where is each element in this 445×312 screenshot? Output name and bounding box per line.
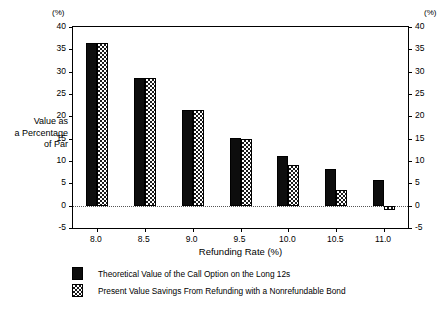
y-axis-tick-left	[69, 72, 73, 73]
y-axis-tick-label-left: 5	[46, 178, 66, 187]
y-axis-tick-label-left: 25	[46, 89, 66, 98]
y-axis-tick-label-right: 35	[415, 44, 424, 53]
bar	[288, 165, 299, 205]
x-axis-tick	[97, 228, 98, 232]
y-axis-tick-label-right: -5	[415, 223, 423, 232]
y-axis-tick-label-right: 15	[415, 134, 424, 143]
bar	[145, 78, 156, 206]
y-axis-unit-label-right: (%)	[424, 8, 436, 17]
y-axis-tick-label-right: 5	[415, 178, 420, 187]
y-axis-tick-label-right: 40	[415, 22, 424, 31]
y-axis-tick-label-left: 15	[46, 134, 66, 143]
x-axis-tick-label: 10.0	[279, 235, 296, 244]
x-axis-tick	[336, 228, 337, 232]
y-axis-tick-left	[69, 139, 73, 140]
legend-swatch	[72, 284, 83, 297]
x-axis-tick	[193, 228, 194, 232]
y-axis-tick-left	[69, 27, 73, 28]
x-axis-tick	[145, 228, 146, 232]
x-axis-tick-label: 8.5	[138, 235, 150, 244]
legend-item: Present Value Savings From Refunding wit…	[72, 282, 412, 299]
bar	[336, 190, 347, 206]
y-axis-tick-left	[69, 206, 73, 207]
y-axis-tick-left	[69, 228, 73, 229]
y-axis-tick-right	[408, 72, 412, 73]
y-axis-tick-right	[408, 161, 412, 162]
x-axis-tick-label: 10.5	[327, 235, 344, 244]
y-axis-tick-left	[69, 161, 73, 162]
y-axis-tick-right	[408, 49, 412, 50]
legend-label: Theoretical Value of the Call Option on …	[98, 269, 290, 279]
bar-chart: (%) (%) Value as a Percentage of Par Ref…	[0, 0, 445, 312]
bar	[193, 110, 204, 206]
y-axis-tick-right	[408, 94, 412, 95]
y-axis-tick-label-left: 35	[46, 44, 66, 53]
y-axis-tick-label-left: 30	[46, 67, 66, 76]
bar	[384, 206, 395, 210]
plot-area	[72, 26, 409, 229]
y-axis-tick-label-left: -5	[46, 223, 66, 232]
plot-inner	[73, 27, 408, 228]
y-axis-tick-left	[69, 49, 73, 50]
bar	[373, 180, 384, 206]
y-axis-tick-label-left: 0	[46, 201, 66, 210]
bar	[325, 169, 336, 206]
y-axis-tick-right	[408, 183, 412, 184]
x-axis-tick-label: 9.0	[186, 235, 198, 244]
bar	[182, 110, 193, 206]
bar	[230, 138, 241, 206]
y-axis-unit-label-left: (%)	[52, 8, 64, 17]
legend-item: Theoretical Value of the Call Option on …	[72, 265, 412, 282]
legend-label: Present Value Savings From Refunding wit…	[98, 286, 346, 296]
y-axis-tick-label-right: 25	[415, 89, 424, 98]
y-axis-tick-right	[408, 206, 412, 207]
x-axis-tick-label: 11.0	[375, 235, 391, 244]
bar	[241, 139, 252, 206]
y-axis-tick-left	[69, 183, 73, 184]
x-axis-tick	[241, 228, 242, 232]
y-axis-tick-label-right: 30	[415, 67, 424, 76]
y-axis-tick-left	[69, 116, 73, 117]
y-axis-tick-right	[408, 228, 412, 229]
bar	[134, 78, 145, 206]
bar	[86, 43, 97, 206]
y-axis-tick-right	[408, 139, 412, 140]
y-axis-tick-label-left: 20	[46, 111, 66, 120]
y-axis-tick-label-right: 20	[415, 111, 424, 120]
y-axis-tick-label-left: 10	[46, 156, 66, 165]
y-axis-tick-right	[408, 116, 412, 117]
bar	[277, 156, 288, 206]
y-axis-tick-label-right: 10	[415, 156, 424, 165]
y-axis-tick-left	[69, 94, 73, 95]
x-axis-tick-label: 8.0	[90, 235, 102, 244]
x-axis-tick-label: 9.5	[234, 235, 246, 244]
y-axis-tick-label-right: 0	[415, 201, 420, 210]
x-axis-title: Refunding Rate (%)	[72, 246, 409, 257]
x-axis-tick	[384, 228, 385, 232]
zero-baseline	[73, 206, 408, 207]
chart-legend: Theoretical Value of the Call Option on …	[72, 265, 412, 299]
x-axis-tick	[288, 228, 289, 232]
y-axis-tick-label-left: 40	[46, 22, 66, 31]
y-axis-tick-right	[408, 27, 412, 28]
legend-swatch	[72, 267, 83, 280]
bar	[97, 43, 108, 206]
